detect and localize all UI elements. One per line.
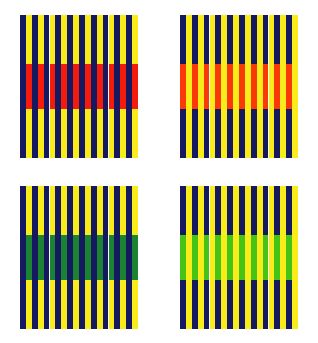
stripe-segment-band <box>292 235 298 279</box>
bottom-right-panel <box>180 186 298 329</box>
stripe-segment-top <box>132 186 138 235</box>
stripe-segment-band <box>132 235 138 279</box>
top-left-panel <box>20 15 138 158</box>
top-right-panel <box>180 15 298 158</box>
stripe-yellow <box>292 15 298 158</box>
bottom-left-panel <box>20 186 138 329</box>
stripe-segment-bottom <box>132 109 138 158</box>
stripe-yellow <box>132 15 138 158</box>
stripe-group <box>180 186 298 329</box>
stripe-group <box>20 186 138 329</box>
figure-root <box>0 0 318 343</box>
stripe-group <box>180 15 298 158</box>
stripe-segment-top <box>132 15 138 64</box>
stripe-segment-band <box>132 64 138 108</box>
stripe-segment-bottom <box>292 109 298 158</box>
stripe-segment-top <box>292 15 298 64</box>
stripe-segment-top <box>292 186 298 235</box>
stripe-yellow <box>132 186 138 329</box>
stripe-segment-band <box>292 64 298 108</box>
stripe-group <box>20 15 138 158</box>
stripe-yellow <box>292 186 298 329</box>
stripe-segment-bottom <box>132 280 138 329</box>
stripe-segment-bottom <box>292 280 298 329</box>
